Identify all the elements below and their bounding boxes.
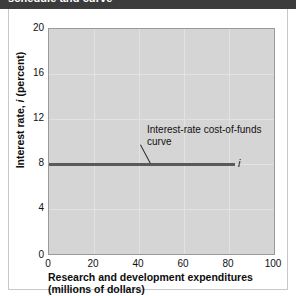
gridline-y-4: [49, 209, 274, 210]
x-tick-60: 60: [168, 259, 198, 269]
annotation-leader-line: [140, 145, 151, 164]
x-tick-40: 40: [123, 259, 153, 269]
x-axis-label-line1: Research and development expenditures: [48, 272, 288, 284]
x-axis-label-line2: (millions of dollars): [48, 284, 288, 296]
gridline-x-20: [94, 29, 95, 254]
figure-container: schedule and curve Interest-rate cost-of…: [0, 0, 296, 296]
curve-annotation-line1: Interest-rate cost-of-funds: [147, 124, 262, 135]
y-axis-label-prefix: Interest rate,: [14, 102, 26, 168]
curve-annotation-line2: curve: [147, 136, 171, 147]
plot-area: Interest-rate cost-of-funds curve i: [48, 28, 275, 255]
figure-header-band: schedule and curve: [0, 0, 296, 9]
x-axis-label: Research and development expenditures (m…: [48, 272, 288, 295]
y-tick-4: 4: [22, 203, 44, 213]
curve-annotation: Interest-rate cost-of-funds curve: [147, 124, 262, 147]
curve-symbol-label: i: [238, 158, 240, 169]
gridline-y-12: [49, 119, 274, 120]
x-tick-20: 20: [78, 259, 108, 269]
y-axis-label-symbol: i: [14, 99, 26, 102]
gridline-y-16: [49, 74, 274, 75]
gridline-x-40: [139, 29, 140, 254]
y-axis-label-suffix: (percent): [14, 52, 26, 100]
y-axis-label: Interest rate, i (percent): [14, 30, 26, 190]
interest-rate-cost-of-funds-curve: [49, 163, 235, 166]
x-tick-0: 0: [33, 259, 63, 269]
x-tick-100: 100: [258, 259, 288, 269]
x-tick-80: 80: [213, 259, 243, 269]
